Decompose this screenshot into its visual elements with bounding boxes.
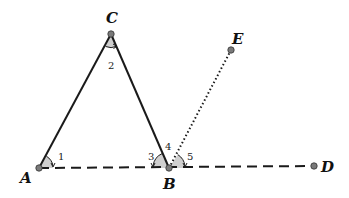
point-B[interactable] <box>166 165 172 171</box>
geometry-diagram: C A B E D 1 2 3 4 5 <box>0 0 349 198</box>
label-C: C <box>106 9 118 27</box>
segment-CB <box>111 34 169 168</box>
angle-label-3: 3 <box>148 151 154 162</box>
segment-AC <box>39 34 111 168</box>
angle-label-4: 4 <box>165 141 171 152</box>
segment-BE-dotted <box>169 50 231 168</box>
angle-label-2: 2 <box>108 60 114 71</box>
label-E: E <box>231 30 244 48</box>
segment-AD-dashed <box>39 166 314 168</box>
angle-label-5: 5 <box>187 151 193 162</box>
point-A[interactable] <box>36 165 42 171</box>
label-A: A <box>18 169 32 187</box>
angle-label-1: 1 <box>58 151 64 162</box>
point-C[interactable] <box>108 31 114 37</box>
label-D: D <box>320 158 334 176</box>
point-D[interactable] <box>311 163 317 169</box>
label-B: B <box>162 175 176 193</box>
